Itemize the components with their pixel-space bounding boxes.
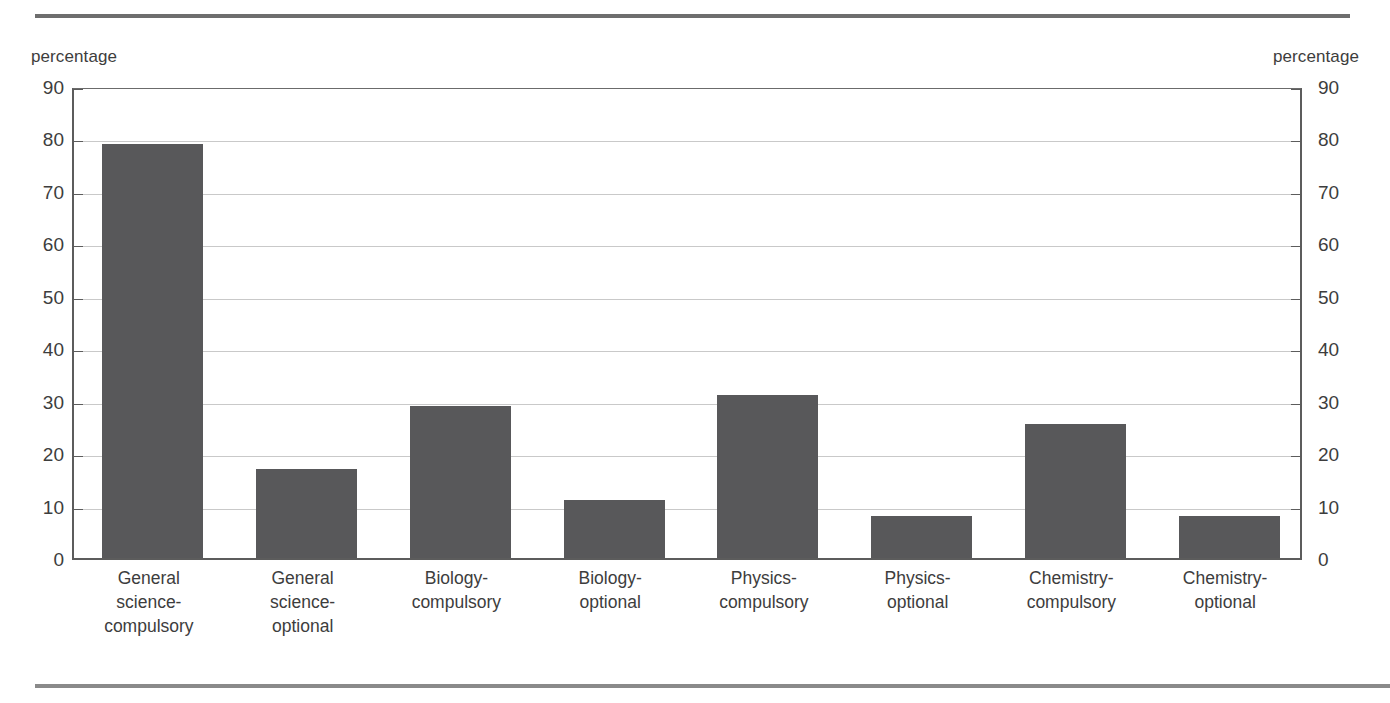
x-label-line: Biology-	[380, 566, 534, 590]
right-axis-unit-label: percentage	[1273, 47, 1359, 67]
bar	[1179, 516, 1280, 558]
x-label-line: compulsory	[72, 614, 226, 638]
x-axis-category-label: Biology-optional	[533, 566, 687, 614]
x-label-line: compulsory	[380, 590, 534, 614]
x-label-line: science-	[226, 590, 380, 614]
y-tick-label-right-0: 0	[1318, 550, 1378, 569]
x-label-line: optional	[226, 614, 380, 638]
y-tick-label-right-80: 80	[1318, 130, 1378, 149]
bar-series	[74, 89, 1300, 558]
y-tick-label-left-30: 30	[4, 393, 64, 412]
x-label-line: optional	[841, 590, 995, 614]
y-tick-label-left-90: 90	[4, 78, 64, 97]
x-label-line: Physics-	[687, 566, 841, 590]
bar	[564, 500, 665, 558]
x-axis-category-label: Physics-compulsory	[687, 566, 841, 614]
y-tick-label-left-80: 80	[4, 130, 64, 149]
y-tick-label-right-60: 60	[1318, 235, 1378, 254]
y-tick-label-left-10: 10	[4, 498, 64, 517]
x-label-line: compulsory	[995, 590, 1149, 614]
x-label-line: General	[226, 566, 380, 590]
x-axis-category-label: Biology-compulsory	[380, 566, 534, 614]
x-label-line: General	[72, 566, 226, 590]
y-tick-label-right-10: 10	[1318, 498, 1378, 517]
y-tick-label-left-70: 70	[4, 183, 64, 202]
y-tick-label-left-60: 60	[4, 235, 64, 254]
x-axis-category-label: Chemistry-optional	[1148, 566, 1302, 614]
x-label-line: Chemistry-	[995, 566, 1149, 590]
x-label-line: Physics-	[841, 566, 995, 590]
x-axis-category-label: Generalscience-optional	[226, 566, 380, 638]
bar	[256, 469, 357, 558]
x-label-line: Biology-	[533, 566, 687, 590]
plot-area	[72, 88, 1302, 560]
y-tick-label-left-0: 0	[4, 550, 64, 569]
bar	[102, 144, 203, 558]
bar	[1025, 424, 1126, 558]
x-label-line: optional	[533, 590, 687, 614]
bar	[871, 516, 972, 558]
x-axis-category-labels: Generalscience-compulsoryGeneralscience-…	[72, 566, 1302, 676]
x-axis-category-label: Physics-optional	[841, 566, 995, 614]
y-tick-label-left-20: 20	[4, 445, 64, 464]
bottom-rule	[35, 684, 1390, 688]
y-tick-label-right-20: 20	[1318, 445, 1378, 464]
y-tick-label-right-70: 70	[1318, 183, 1378, 202]
y-tick-label-left-40: 40	[4, 340, 64, 359]
y-tick-label-right-30: 30	[1318, 393, 1378, 412]
bar	[410, 406, 511, 558]
x-label-line: Chemistry-	[1148, 566, 1302, 590]
x-label-line: compulsory	[687, 590, 841, 614]
top-rule	[35, 14, 1350, 18]
y-tick-label-left-50: 50	[4, 288, 64, 307]
bar-chart-figure: percentage percentage 001010202030304040…	[0, 0, 1390, 703]
y-tick-label-right-50: 50	[1318, 288, 1378, 307]
x-axis-category-label: Generalscience-compulsory	[72, 566, 226, 638]
bar	[717, 395, 818, 558]
x-label-line: optional	[1148, 590, 1302, 614]
x-axis-category-label: Chemistry-compulsory	[995, 566, 1149, 614]
left-axis-unit-label: percentage	[31, 47, 117, 67]
y-tick-label-right-40: 40	[1318, 340, 1378, 359]
y-tick-label-right-90: 90	[1318, 78, 1378, 97]
x-label-line: science-	[72, 590, 226, 614]
